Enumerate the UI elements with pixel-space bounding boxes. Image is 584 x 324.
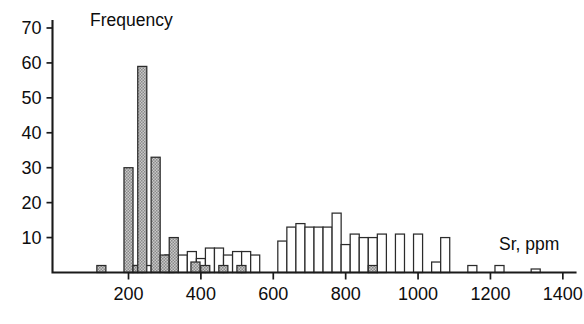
y-axis-title: Frequency [90,10,173,30]
y-tick-label: 20 [21,193,41,213]
histogram-bar [441,238,450,273]
histogram-figure: 10203040506070 200400600800100012001400 … [0,0,584,324]
histogram-bar [124,168,133,273]
y-tick-label: 40 [21,123,41,143]
x-axis-ticks: 200400600800100012001400 [113,273,582,304]
histogram-bar [296,224,305,273]
histogram-bar [251,255,260,272]
y-tick-label: 50 [21,88,41,108]
histogram-bar [151,157,160,272]
histogram-bar [395,234,404,272]
x-axis-title: Sr, ppm [499,234,559,254]
histogram-bar [191,262,200,272]
y-axis-ticks: 10203040506070 [21,18,52,248]
histogram-bar [414,234,423,272]
chart-canvas: 10203040506070 200400600800100012001400 … [0,0,584,324]
histogram-bar [432,262,441,272]
x-tick-label: 600 [258,284,288,304]
y-tick-label: 10 [21,228,41,248]
histogram-bar [138,66,147,272]
y-tick-label: 60 [21,53,41,73]
histogram-bar [178,255,187,272]
y-tick-label: 30 [21,158,41,178]
histogram-bar [278,241,287,272]
x-tick-label: 200 [113,284,143,304]
x-tick-label: 800 [331,284,361,304]
histogram-bar [160,255,169,272]
histogram-bar [314,227,323,272]
x-tick-label: 1200 [470,284,510,304]
histogram-bar [287,227,296,272]
histogram-bar [305,227,314,272]
histogram-bar [332,213,341,272]
x-tick-label: 1400 [543,284,583,304]
histogram-bar [359,238,368,273]
x-tick-label: 1000 [398,284,438,304]
histogram-bar [169,238,178,273]
x-tick-label: 400 [186,284,216,304]
bars-layer [97,66,540,272]
histogram-bar [350,234,359,272]
histogram-bar [323,227,332,272]
histogram-bar [377,234,386,272]
y-tick-label: 70 [21,18,41,38]
histogram-bar [341,245,350,273]
